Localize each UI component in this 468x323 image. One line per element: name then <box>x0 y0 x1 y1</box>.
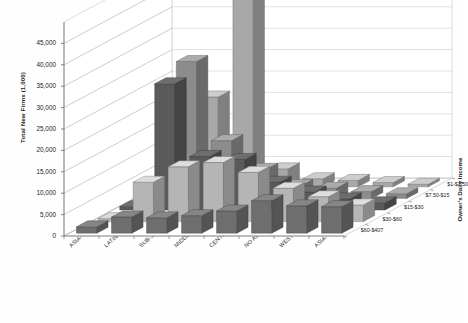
bar-column <box>182 210 214 234</box>
bar-column <box>322 201 354 234</box>
bar-column <box>287 200 319 233</box>
bar-column <box>252 195 284 234</box>
bar-column <box>217 205 249 233</box>
bar-column <box>112 211 144 233</box>
